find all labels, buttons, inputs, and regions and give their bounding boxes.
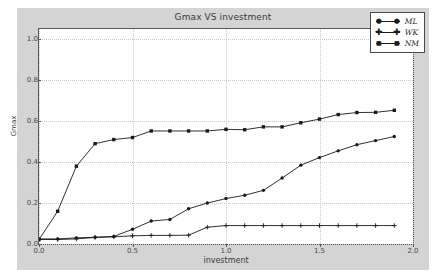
data-point-plus <box>299 223 304 228</box>
chart-title: Gmax VS investment <box>17 12 429 22</box>
y-tick-mark <box>38 121 41 122</box>
data-point-circle <box>355 143 358 146</box>
plot-inner <box>39 29 413 244</box>
data-point-square <box>168 129 171 132</box>
data-point-square <box>337 113 340 116</box>
data-point-circle <box>262 189 265 192</box>
data-point-circle <box>337 149 340 152</box>
x-tick-label: 0.0 <box>27 247 51 255</box>
legend-marker-circle-icon: ● ● <box>375 16 401 27</box>
data-point-plus <box>112 235 117 240</box>
data-point-square <box>374 111 377 114</box>
data-point-plus <box>242 223 247 228</box>
chart-legend[interactable]: ● ● ML ✚ ✚ WK ■ ■ NM <box>370 12 425 53</box>
data-point-plus <box>355 223 360 228</box>
legend-item-ml[interactable]: ● ● ML <box>375 16 419 27</box>
data-point-plus <box>74 237 79 242</box>
y-tick-marks <box>38 28 44 245</box>
data-point-plus <box>149 233 154 238</box>
data-point-square <box>318 117 321 120</box>
legend-label-ml: ML <box>405 17 418 26</box>
data-point-plus <box>186 233 191 238</box>
y-tick-label: 0.8 <box>18 76 38 84</box>
series-layer <box>39 29 413 244</box>
y-tick-mark <box>38 80 41 81</box>
y-tick-label: 0.4 <box>18 158 38 166</box>
legend-marker-square-icon: ■ ■ <box>375 38 401 49</box>
data-point-circle <box>187 207 190 210</box>
x-tick-mark <box>39 244 40 247</box>
data-point-square <box>393 109 396 112</box>
x-tick-mark <box>413 244 414 247</box>
y-axis-ticks: 0.00.20.40.60.81.0 <box>17 28 38 245</box>
x-tick-label: 2.0 <box>401 247 425 255</box>
x-tick-mark <box>226 244 227 247</box>
data-point-square <box>187 129 190 132</box>
data-point-square <box>75 164 78 167</box>
data-point-circle <box>299 163 302 166</box>
series-line <box>39 110 394 239</box>
data-point-plus <box>373 223 378 228</box>
data-point-square <box>224 128 227 131</box>
x-tick-marks <box>38 242 414 248</box>
data-point-square <box>206 129 209 132</box>
figure-canvas: Gmax VS investment Gmax investment 0.00.… <box>17 8 429 270</box>
x-tick-label: 0.5 <box>121 247 145 255</box>
y-tick-mark <box>38 203 41 204</box>
data-point-plus <box>168 233 173 238</box>
data-point-circle <box>393 135 396 138</box>
data-point-circle <box>243 194 246 197</box>
y-tick-label: 0.2 <box>18 199 38 207</box>
data-point-circle <box>374 139 377 142</box>
data-point-square <box>150 129 153 132</box>
data-point-circle <box>224 197 227 200</box>
data-point-circle <box>318 156 321 159</box>
series-nm <box>39 109 396 242</box>
data-point-circle <box>131 228 134 231</box>
legend-label-nm: NM <box>405 39 419 48</box>
data-point-plus <box>130 234 135 239</box>
data-point-square <box>280 125 283 128</box>
data-point-plus <box>224 223 229 228</box>
data-point-plus <box>392 223 397 228</box>
data-point-circle <box>206 201 209 204</box>
data-point-plus <box>205 225 210 230</box>
x-tick-label: 1.5 <box>308 247 332 255</box>
data-point-plus <box>336 223 341 228</box>
x-axis-ticks: 0.00.51.01.52.0 <box>38 247 414 259</box>
series-ml <box>39 135 396 241</box>
data-point-square <box>112 138 115 141</box>
data-point-plus <box>93 235 98 240</box>
data-point-square <box>243 128 246 131</box>
legend-marker-plus-icon: ✚ ✚ <box>375 27 401 38</box>
data-point-square <box>56 210 59 213</box>
legend-item-nm[interactable]: ■ ■ NM <box>375 38 419 49</box>
data-point-square <box>355 111 358 114</box>
series-line <box>39 137 394 239</box>
x-tick-mark <box>320 244 321 247</box>
data-point-circle <box>150 219 153 222</box>
y-tick-mark <box>38 39 41 40</box>
data-point-square <box>299 121 302 124</box>
data-point-circle <box>168 218 171 221</box>
data-point-plus <box>261 223 266 228</box>
y-tick-mark <box>38 162 41 163</box>
data-point-circle <box>280 176 283 179</box>
x-tick-label: 1.0 <box>214 247 238 255</box>
legend-item-wk[interactable]: ✚ ✚ WK <box>375 27 419 38</box>
legend-label-wk: WK <box>405 28 418 37</box>
gridline-vertical <box>413 29 414 244</box>
data-point-square <box>93 142 96 145</box>
series-wk <box>39 223 397 242</box>
data-point-plus <box>317 223 322 228</box>
y-tick-label: 0.6 <box>18 117 38 125</box>
series-line <box>39 226 394 240</box>
plot-area <box>38 28 414 245</box>
y-tick-label: 1.0 <box>18 35 38 43</box>
data-point-square <box>262 125 265 128</box>
data-point-plus <box>280 223 285 228</box>
x-tick-mark <box>133 244 134 247</box>
data-point-square <box>131 136 134 139</box>
